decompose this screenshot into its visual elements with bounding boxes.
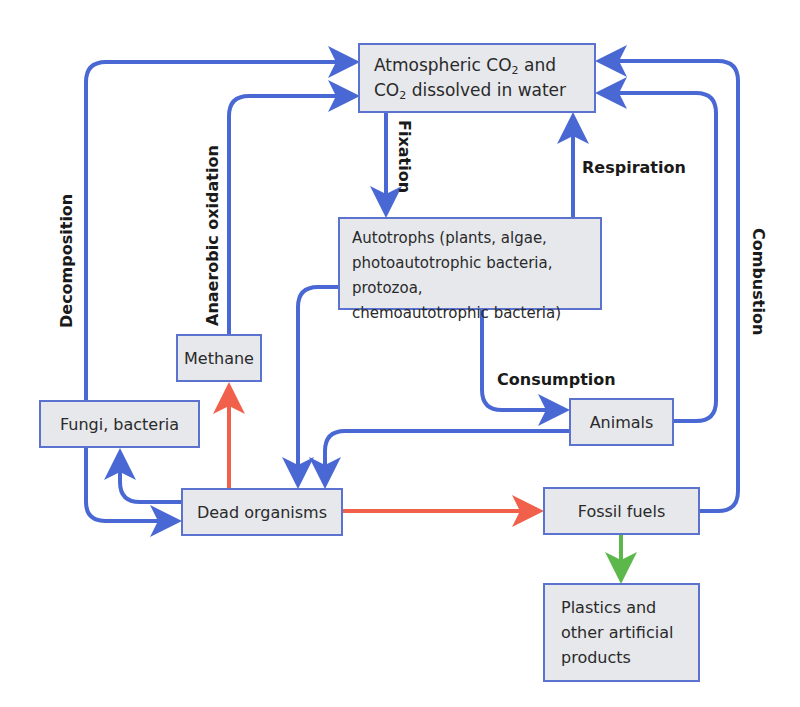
- methane-label: Methane: [184, 348, 254, 369]
- label-consumption: Consumption: [497, 370, 616, 389]
- label-respiration: Respiration: [582, 158, 686, 177]
- node-autotrophs: Autotrophs (plants, algae, photoautotrop…: [338, 217, 602, 310]
- node-animals: Animals: [569, 398, 674, 446]
- plastics-line1: Plastics and: [561, 595, 682, 620]
- arrow-dead-fungi: [120, 456, 181, 502]
- fossil-label: Fossil fuels: [578, 501, 665, 522]
- label-decomposition: Decomposition: [57, 194, 76, 328]
- arrow-fungi-dead: [86, 448, 174, 521]
- autotrophs-line1: Autotrophs (plants, algae,: [352, 226, 588, 251]
- node-atmospheric-co2: Atmospheric CO2 and CO2 dissolved in wat…: [358, 43, 596, 113]
- arrow-animals-dead: [325, 431, 569, 481]
- fungi-label: Fungi, bacteria: [60, 414, 179, 435]
- arrow-anaerobic-oxidation: [229, 96, 352, 334]
- autotrophs-line3: chemoautotrophic bacteria): [352, 301, 588, 326]
- atmospheric-line1: Atmospheric CO2 and: [374, 53, 580, 78]
- autotrophs-line2: photoautotrophic bacteria, protozoa,: [352, 251, 588, 301]
- arrow-autotrophs-dead: [298, 287, 338, 481]
- label-combustion: Combustion: [749, 228, 768, 335]
- arrow-respiration-animals: [603, 93, 716, 421]
- node-plastics: Plastics and other artificial products: [543, 583, 700, 682]
- label-fixation: Fixation: [395, 120, 414, 193]
- plastics-line2: other artificial: [561, 620, 682, 645]
- node-dead-organisms: Dead organisms: [181, 488, 343, 536]
- node-methane: Methane: [176, 334, 262, 382]
- atmospheric-line2: CO2 dissolved in water: [374, 78, 580, 103]
- node-fossil-fuels: Fossil fuels: [543, 487, 700, 535]
- animals-label: Animals: [590, 412, 654, 433]
- plastics-line3: products: [561, 645, 682, 670]
- dead-label: Dead organisms: [197, 502, 327, 523]
- label-anaerobic-oxidation: Anaerobic oxidation: [203, 145, 222, 326]
- node-fungi-bacteria: Fungi, bacteria: [39, 400, 200, 448]
